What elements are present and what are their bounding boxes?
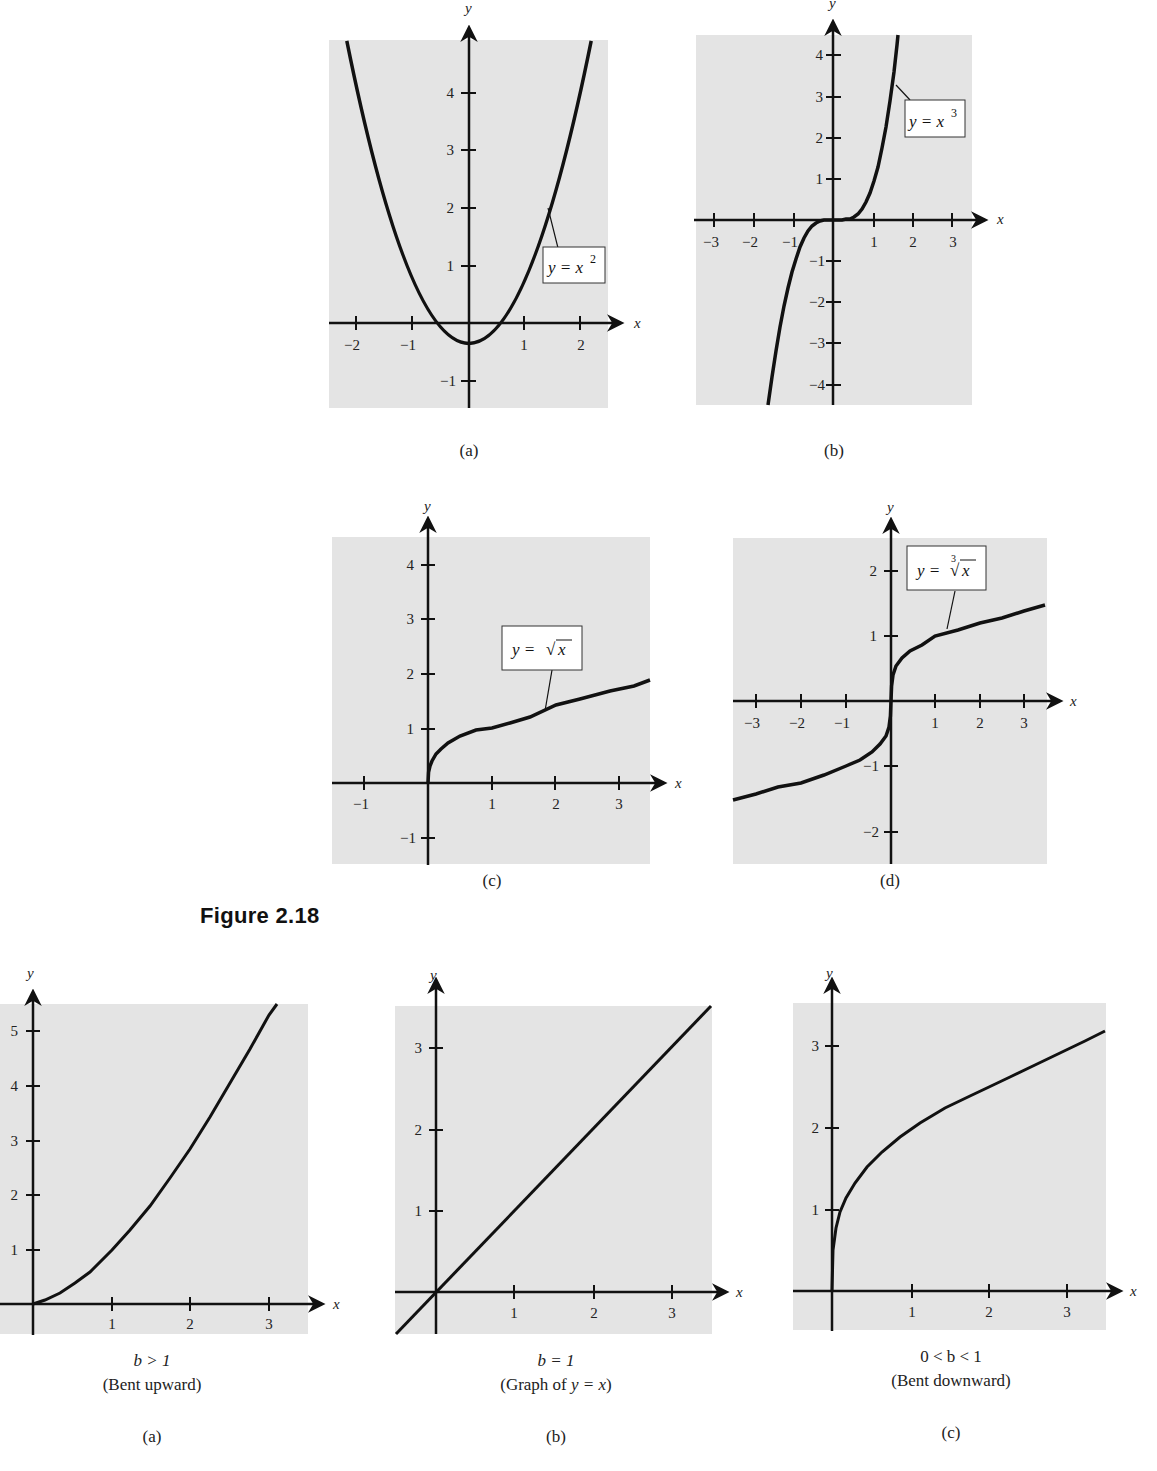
svg-text:x: x <box>557 640 566 659</box>
svg-text:1: 1 <box>510 1305 518 1321</box>
svg-text:3: 3 <box>668 1305 676 1321</box>
svg-text:2: 2 <box>552 796 560 812</box>
svg-text:y = x: y = x <box>546 258 584 277</box>
svg-text:3: 3 <box>1063 1304 1071 1320</box>
y-axis-label: y <box>824 965 833 981</box>
svg-text:2: 2 <box>812 1120 820 1136</box>
svg-text:3: 3 <box>407 611 415 627</box>
caption: (c) <box>942 1423 961 1442</box>
svg-text:x: x <box>961 561 970 580</box>
chart-bottom-a: 1 2 3 5 4 3 2 1 x y b > 1 (Bent upward) … <box>0 965 340 1446</box>
svg-text:−3: −3 <box>703 234 719 250</box>
caption: (a) <box>143 1427 162 1446</box>
caption: (b) <box>824 441 844 460</box>
caption: (d) <box>880 871 900 890</box>
y-axis-label: y <box>428 967 437 983</box>
chart-top-c: −1 1 2 3 4 3 2 1 −1 x y y = √ x (c) <box>332 498 682 890</box>
svg-text:2: 2 <box>976 715 984 731</box>
svg-text:−3: −3 <box>809 335 825 351</box>
svg-text:3: 3 <box>816 89 824 105</box>
svg-text:2: 2 <box>447 200 455 216</box>
svg-text:−1: −1 <box>809 253 825 269</box>
chart-top-a: −2 −1 1 2 4 3 2 1 −1 x y y = x 2 (a) <box>329 0 641 460</box>
svg-text:2: 2 <box>590 1305 598 1321</box>
svg-text:4: 4 <box>11 1078 19 1094</box>
svg-text:1: 1 <box>407 721 415 737</box>
condition-label: b = 1 <box>538 1351 575 1370</box>
svg-text:1: 1 <box>447 258 455 274</box>
svg-text:1: 1 <box>415 1203 423 1219</box>
svg-text:3: 3 <box>265 1316 273 1332</box>
condition-label: 0 < b < 1 <box>920 1347 982 1366</box>
y-axis-label: y <box>463 0 472 16</box>
function-label-box: y = x 2 <box>543 247 605 283</box>
x-axis-label: x <box>996 211 1004 227</box>
svg-text:−1: −1 <box>834 715 850 731</box>
y-axis-label: y <box>827 0 836 11</box>
svg-text:1: 1 <box>816 171 824 187</box>
svg-text:1: 1 <box>520 337 528 353</box>
x-axis-label: x <box>1069 693 1077 709</box>
x-axis-label: x <box>332 1296 340 1312</box>
svg-text:3: 3 <box>812 1038 820 1054</box>
y-axis-label: y <box>25 965 34 981</box>
svg-text:−1: −1 <box>400 337 416 353</box>
function-label-box: y = x 3 <box>905 100 965 137</box>
svg-text:4: 4 <box>816 47 824 63</box>
chart-bottom-b: 1 2 3 3 2 1 x y b = 1 (Graph of y = x) (… <box>395 967 743 1446</box>
plot-background <box>0 1004 308 1334</box>
svg-text:−1: −1 <box>440 373 456 389</box>
x-axis-label: x <box>735 1284 743 1300</box>
svg-text:−1: −1 <box>353 796 369 812</box>
description-label: (Graph of y = x) <box>500 1375 612 1394</box>
x-axis-label: x <box>674 775 682 791</box>
svg-text:√: √ <box>546 640 556 659</box>
caption: (c) <box>483 871 502 890</box>
svg-text:1: 1 <box>11 1242 19 1258</box>
svg-text:3: 3 <box>11 1133 19 1149</box>
svg-text:−3: −3 <box>744 715 760 731</box>
svg-text:3: 3 <box>615 796 623 812</box>
svg-text:2: 2 <box>985 1304 993 1320</box>
svg-text:2: 2 <box>870 563 878 579</box>
condition-label: b > 1 <box>134 1351 171 1370</box>
description-label: (Bent upward) <box>103 1375 202 1394</box>
y-axis-label: y <box>885 499 894 515</box>
caption: (b) <box>546 1427 566 1446</box>
svg-text:1: 1 <box>812 1202 820 1218</box>
description-label: (Bent downward) <box>891 1371 1010 1390</box>
svg-text:y =: y = <box>510 640 535 659</box>
function-label-box: y = 3 √ x <box>907 546 986 590</box>
svg-text:2: 2 <box>816 130 824 146</box>
svg-text:5: 5 <box>11 1023 19 1039</box>
svg-text:y =: y = <box>915 561 940 580</box>
svg-text:4: 4 <box>447 85 455 101</box>
svg-text:3: 3 <box>447 142 455 158</box>
caption: (a) <box>460 441 479 460</box>
svg-text:1: 1 <box>908 1304 916 1320</box>
svg-text:2: 2 <box>577 337 585 353</box>
svg-text:2: 2 <box>909 234 917 250</box>
x-axis-label: x <box>1129 1283 1137 1299</box>
svg-text:√: √ <box>950 561 960 580</box>
svg-text:3: 3 <box>1020 715 1028 731</box>
svg-text:2: 2 <box>415 1122 423 1138</box>
svg-text:−2: −2 <box>742 234 758 250</box>
svg-text:1: 1 <box>870 628 878 644</box>
svg-text:1: 1 <box>870 234 878 250</box>
svg-text:1: 1 <box>108 1316 116 1332</box>
x-axis-label: x <box>633 315 641 331</box>
figure-canvas: −2 −1 1 2 4 3 2 1 −1 x y y = x 2 (a) <box>0 0 1157 1471</box>
svg-text:y = x: y = x <box>907 112 945 131</box>
chart-top-b: −3 −2 −1 1 2 3 4 3 2 1 −1 −2 −3 −4 x y y… <box>694 0 1004 460</box>
svg-text:4: 4 <box>407 557 415 573</box>
function-label-box: y = √ x <box>502 626 582 670</box>
chart-bottom-c: 1 2 3 3 2 1 x y 0 < b < 1 (Bent downward… <box>793 965 1137 1442</box>
svg-text:3: 3 <box>949 234 957 250</box>
svg-text:2: 2 <box>186 1316 194 1332</box>
svg-text:−1: −1 <box>400 830 416 846</box>
svg-text:3: 3 <box>415 1040 423 1056</box>
svg-text:2: 2 <box>407 666 415 682</box>
svg-text:−2: −2 <box>809 294 825 310</box>
svg-text:2: 2 <box>590 252 596 266</box>
